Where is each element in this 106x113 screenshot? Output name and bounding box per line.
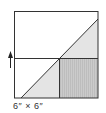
quilt-block-diagram [0,0,106,113]
block-size-label: 6″ × 6″ [13,101,43,111]
up-arrow-icon [8,51,13,68]
striped-square-region [59,58,98,98]
